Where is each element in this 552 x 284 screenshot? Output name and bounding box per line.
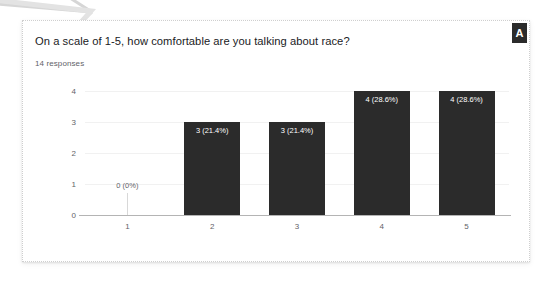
bar-value-label: 4 (28.6%)	[450, 95, 483, 104]
plot-area: 012340 (0%)13 (21.4%)23 (21.4%)34 (28.6%…	[85, 91, 509, 215]
y-axis-tick-label: 2	[72, 149, 76, 158]
bar[interactable]: 4 (28.6%)	[354, 91, 410, 215]
bar[interactable]: 3 (21.4%)	[269, 122, 325, 215]
bar-chart: 012340 (0%)13 (21.4%)23 (21.4%)34 (28.6%…	[23, 21, 531, 263]
bar[interactable]: 4 (28.6%)	[439, 91, 495, 215]
y-axis-tick-label: 0	[72, 211, 76, 220]
bar-value-label: 3 (21.4%)	[281, 126, 314, 135]
y-axis-tick-label: 4	[72, 87, 76, 96]
survey-result-card: A On a scale of 1-5, how comfortable are…	[22, 20, 530, 262]
x-axis-tick-label: 2	[210, 222, 214, 231]
bar-value-label: 0 (0%)	[116, 181, 138, 190]
bar-value-label: 4 (28.6%)	[366, 95, 399, 104]
x-axis-tick-label: 1	[125, 222, 129, 231]
x-axis-tick-label: 3	[295, 222, 299, 231]
zero-value-stub	[127, 193, 128, 215]
y-axis-tick-label: 1	[72, 180, 76, 189]
x-axis-line	[79, 215, 511, 216]
x-axis-tick-label: 5	[464, 222, 468, 231]
bar-value-label: 3 (21.4%)	[196, 126, 229, 135]
bar[interactable]: 3 (21.4%)	[184, 122, 240, 215]
x-axis-tick-label: 4	[380, 222, 384, 231]
y-axis-tick-label: 3	[72, 118, 76, 127]
